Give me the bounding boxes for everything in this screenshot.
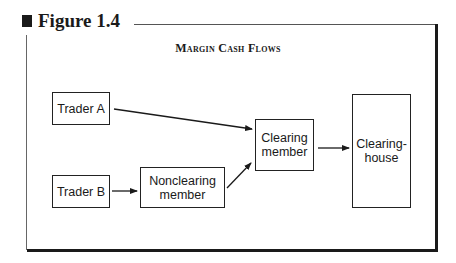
node-trader-b: Trader B [52,175,110,208]
arrow-nonclearing-to-clearing-member [227,163,251,188]
node-clearing-member: Clearing member [255,119,314,171]
node-trader-a-label: Trader A [57,102,104,116]
node-clearinghouse-label: Clearing-house [356,137,407,165]
node-nonclearing-label: Nonclearing member [145,174,220,202]
arrow-trader-a-to-clearing-member [114,109,252,129]
node-nonclearing-member: Nonclearing member [140,167,225,208]
node-clearinghouse: Clearing-house [352,94,411,208]
node-trader-b-label: Trader B [57,185,105,199]
node-clearing-member-label: Clearing member [259,131,310,159]
node-trader-a: Trader A [52,92,110,125]
